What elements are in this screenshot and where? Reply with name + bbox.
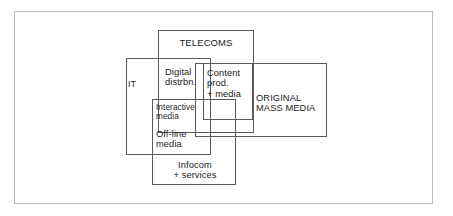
label-infocom-services: Infocom + services <box>155 160 235 181</box>
label-interactive-media: Interactive media <box>156 103 204 121</box>
label-telecoms: TELECOMS <box>163 38 249 49</box>
label-original-mass-media: ORIGINAL MASS MEDIA <box>256 93 324 114</box>
label-it: IT <box>128 79 152 89</box>
label-offline-media: Off-line media <box>156 129 200 150</box>
label-digital-distribution: Digital distrbn. <box>165 67 209 88</box>
label-content-production: Content prod. + media <box>207 68 251 99</box>
diagram-canvas: TELECOMS IT Digital distrbn. Content pro… <box>0 0 453 216</box>
